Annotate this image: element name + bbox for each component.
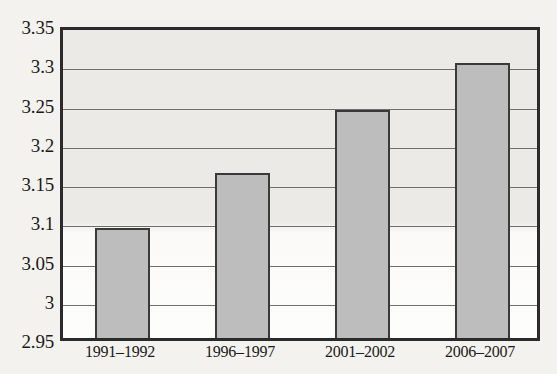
x-axis: 1991–19921996–19972001–20022006–2007 [60, 344, 540, 374]
y-axis: 3.353.33.253.23.153.13.0532.95 [0, 0, 54, 374]
y-tick-label: 3.1 [0, 214, 54, 233]
x-tick-label: 1996–1997 [180, 344, 300, 361]
y-tick-label: 3.3 [0, 57, 54, 76]
y-tick-label: 3.2 [0, 135, 54, 154]
plot-area [60, 27, 540, 341]
y-tick-label: 3.15 [0, 175, 54, 194]
y-tick-label: 3 [0, 292, 54, 311]
bar-chart: 3.353.33.253.23.153.13.0532.95 1991–1992… [0, 0, 557, 374]
bar-series [63, 30, 537, 338]
bar [335, 110, 390, 338]
x-tick-label: 2006–2007 [420, 344, 540, 361]
y-tick-label: 3.25 [0, 96, 54, 115]
y-tick-label: 3.05 [0, 253, 54, 272]
x-tick-label: 2001–2002 [300, 344, 420, 361]
bar [95, 228, 150, 338]
bar [455, 63, 510, 338]
x-tick-label: 1991–1992 [60, 344, 180, 361]
y-tick-label: 2.95 [0, 332, 54, 351]
y-tick-label: 3.35 [0, 18, 54, 37]
bar [215, 173, 270, 338]
